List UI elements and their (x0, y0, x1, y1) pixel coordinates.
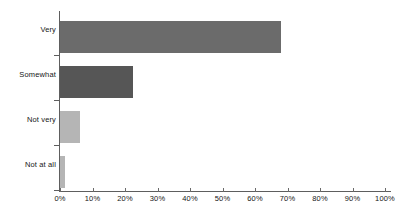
bar-not-at-all (60, 156, 65, 188)
x-axis-line (59, 191, 391, 192)
x-axis-tick (320, 188, 321, 192)
bar-not-very (60, 111, 80, 143)
plot-area (60, 12, 385, 190)
x-axis-tick (223, 188, 224, 192)
category-label-not-very: Not very (27, 116, 56, 124)
category-label-very: Very (40, 26, 56, 34)
category-label-not-at-all: Not at all (25, 161, 56, 169)
bar-chart: Very Somewhat Not very Not at all 0%10%2… (0, 0, 411, 218)
bar-very (60, 21, 281, 53)
x-axis-tick (255, 188, 256, 192)
x-axis-tick-label: 100% (365, 195, 405, 203)
x-axis-tick (190, 188, 191, 192)
x-axis-tick (288, 188, 289, 192)
x-axis-tick (93, 188, 94, 192)
x-axis-tick (385, 188, 386, 192)
category-label-somewhat: Somewhat (19, 71, 56, 79)
bar-somewhat (60, 66, 133, 98)
x-axis-tick (158, 188, 159, 192)
x-axis-tick (60, 188, 61, 192)
x-axis-tick (125, 188, 126, 192)
x-axis-tick (353, 188, 354, 192)
